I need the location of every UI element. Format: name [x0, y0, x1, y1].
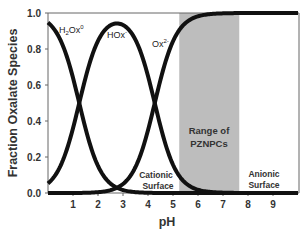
x-tick-label: 9: [270, 199, 276, 210]
label-ox: Ox2-: [152, 38, 169, 49]
x-axis-title: pH: [159, 215, 176, 229]
x-tick-label: 2: [95, 199, 101, 210]
label-h2ox: H2Ox0: [59, 24, 84, 36]
speciation-chart: 0.00.20.40.60.81.0 123456789 Fraction Ox…: [0, 0, 306, 235]
curve-hox: [48, 23, 298, 193]
y-tick-label: 0.8: [27, 44, 41, 55]
y-axis-ticks: 0.00.20.40.60.81.0: [27, 8, 48, 199]
cationic-label-line1: Cationic: [139, 170, 173, 180]
y-tick-label: 0.2: [27, 152, 41, 163]
x-tick-label: 4: [145, 199, 151, 210]
y-axis-title: Fraction Oxalate Species: [6, 29, 20, 178]
species-curves: [48, 13, 298, 193]
label-hox: HOx-: [107, 29, 127, 40]
range-label-line2: PZNPCs: [190, 138, 227, 149]
x-tick-label: 7: [220, 199, 226, 210]
y-tick-label: 0.4: [27, 116, 41, 127]
x-tick-label: 1: [70, 199, 76, 210]
y-tick-label: 0.0: [27, 188, 41, 199]
anionic-label-line1: Anionic: [248, 169, 279, 179]
anionic-label-line2: Surface: [248, 180, 279, 190]
x-axis-ticks: 123456789: [70, 193, 276, 210]
x-tick-label: 8: [245, 199, 251, 210]
y-tick-label: 0.6: [27, 80, 41, 91]
cationic-label-line2: Surface: [142, 181, 173, 191]
y-tick-label: 1.0: [27, 8, 41, 19]
range-label-line1: Range of: [189, 125, 230, 136]
x-tick-label: 5: [170, 199, 176, 210]
pznpc-range-band: [179, 13, 239, 193]
x-tick-label: 3: [120, 199, 126, 210]
x-tick-label: 6: [195, 199, 201, 210]
